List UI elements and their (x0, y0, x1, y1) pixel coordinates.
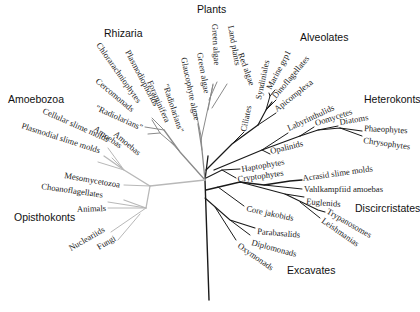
branch-plants (164, 130, 205, 180)
group-label-plants: Plants (197, 3, 226, 15)
leaf-label-vahlkampfiid-amoebas: Vahlkampfiid amoebas (304, 184, 384, 194)
leaf-label-acrasid-slime-molds: Acrasid slime molds (302, 163, 374, 183)
leaf-label-chrysophytes: Chrysophytes (363, 135, 412, 152)
group-label-discicristates: Discircristates (355, 202, 420, 214)
branch-bikont (300, 128, 362, 136)
group-label-heterokonts: Heterokonts (364, 93, 420, 105)
branch-unikont (111, 208, 146, 232)
group-label-excavates: Excavates (287, 264, 335, 276)
branch-plants (148, 133, 160, 134)
leaf-label-red-algae: Red algae (236, 51, 257, 87)
leaf-label-phaeophytes: Phaeophytes (364, 123, 409, 135)
branch-unikont (124, 185, 150, 186)
branch-unikont (108, 148, 124, 170)
leaf-label-parabasalids: Parabasalids (257, 226, 301, 240)
leaf-label-animals: Animals (77, 203, 107, 214)
group-label-alveolates: Alveolates (300, 31, 348, 43)
branch-bikont (218, 187, 244, 206)
leaf-label-core-jakobids: Core jakobids (246, 203, 296, 223)
leaf-label-ciliates: Ciliates (238, 104, 253, 132)
branch-bikont (222, 170, 236, 178)
branch-bikont (232, 132, 244, 144)
leaf-label-green-algae-2: Green algae (195, 52, 212, 95)
leaf-label-green-algae-1: Green algae (210, 24, 222, 66)
leaf-labels: Land plantsGreen algaeRed algaeGreen alg… (20, 24, 411, 273)
group-label-opisthokonts: Opisthokonts (14, 211, 75, 223)
branch-bikont (264, 185, 302, 189)
group-label-rhizaria: Rhizaria (104, 27, 143, 39)
group-label-amoebozoa: Amoebozoa (8, 93, 64, 105)
branch-unikont (108, 202, 146, 208)
branch-unikont (118, 214, 140, 240)
branch-plants (152, 120, 174, 145)
branch-plants (198, 124, 205, 180)
branch-bikont (262, 150, 270, 154)
branch-bikont (215, 207, 236, 240)
branch-bikont (230, 220, 250, 235)
phylogenetic-tree: Land plantsGreen algaeRed algaeGreen alg… (0, 0, 420, 312)
